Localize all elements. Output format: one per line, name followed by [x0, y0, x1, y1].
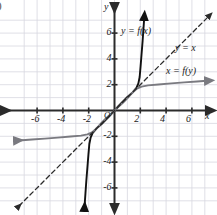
y-tick-label: -2 [99, 129, 112, 140]
curve-label-y-equals-x: y = x [175, 42, 196, 53]
x-tick-label: 2 [134, 113, 139, 124]
y-tick-label: -6 [99, 181, 112, 192]
x-tick-label: 4 [160, 113, 165, 124]
x-axis-label: x [205, 110, 209, 121]
y-tick-label: 4 [99, 52, 112, 63]
x-tick-label: -2 [83, 113, 91, 124]
x-tick-label: -6 [31, 113, 39, 124]
origin-label: O [104, 110, 111, 120]
y-tick-label: 6 [99, 26, 112, 37]
y-tick-label: -4 [99, 155, 112, 166]
graph-figure: ) x y O y = f(x) y = x x = f(y) -6-4-224… [0, 0, 217, 215]
curve-label-x-of-f-y: x = f(y) [166, 65, 196, 76]
y-tick-label: 2 [99, 78, 112, 89]
curve-label-f-of-x: y = f(x) [121, 25, 151, 36]
x-tick-label: 6 [186, 113, 191, 124]
x-tick-label: -4 [57, 113, 65, 124]
y-axis-label: y [104, 1, 108, 12]
